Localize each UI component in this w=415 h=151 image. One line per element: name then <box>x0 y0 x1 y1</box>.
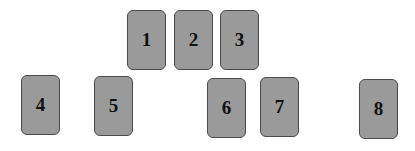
card-5: 5 <box>94 76 133 136</box>
card-label: 3 <box>235 29 245 51</box>
card-7: 7 <box>260 77 299 137</box>
card-4: 4 <box>21 75 60 135</box>
card-6: 6 <box>207 78 246 138</box>
card-3: 3 <box>220 10 259 70</box>
card-2: 2 <box>174 10 213 70</box>
card-1: 1 <box>127 10 166 70</box>
card-label: 8 <box>374 98 384 120</box>
card-8: 8 <box>359 79 398 139</box>
card-label: 1 <box>142 29 152 51</box>
card-label: 5 <box>109 95 119 117</box>
card-label: 2 <box>189 29 199 51</box>
card-label: 7 <box>275 96 285 118</box>
card-label: 4 <box>36 94 46 116</box>
card-label: 6 <box>222 97 232 119</box>
